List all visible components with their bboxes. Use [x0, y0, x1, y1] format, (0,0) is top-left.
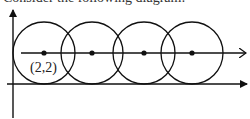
center-dot-1 [41, 50, 46, 55]
center-label: (2,2) [30, 60, 57, 76]
center-dot-3 [141, 50, 146, 55]
center-dot-2 [89, 50, 94, 55]
circles-diagram: (2,2) [0, 0, 250, 119]
center-dot-4 [189, 50, 194, 55]
